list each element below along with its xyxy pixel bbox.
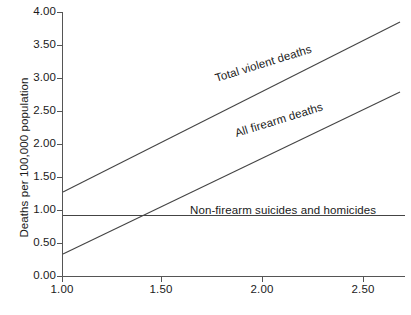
series-label-non-firearm-suicides-and-homicides: Non-firearm suicides and homicides [190, 204, 376, 216]
series-line-total-violent-deaths [63, 22, 400, 192]
y-axis-ticks [57, 13, 63, 277]
chart-figure: Deaths per 100,000 population 4.00 3.50 … [0, 0, 411, 315]
x-axis-ticks [63, 277, 364, 283]
series-line-all-firearm-deaths [63, 92, 400, 254]
plot-area [0, 0, 411, 315]
